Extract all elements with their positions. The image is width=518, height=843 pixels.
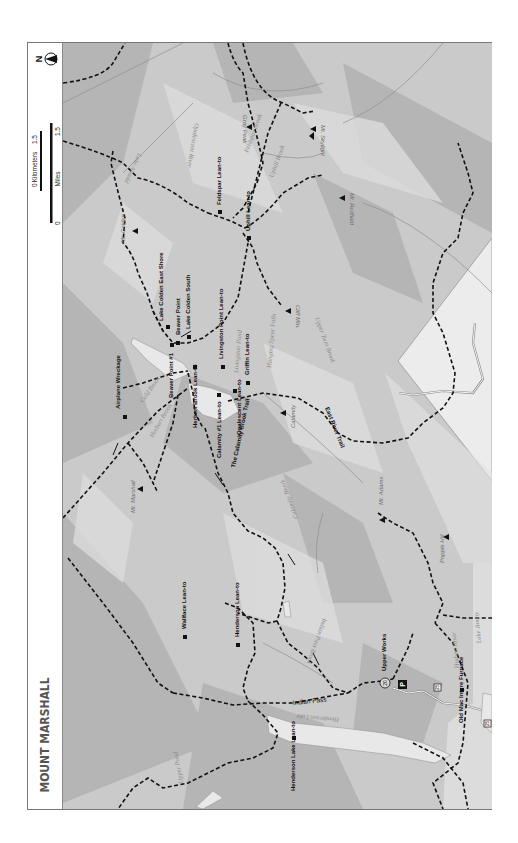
svg-text:Mt. Colden: Mt. Colden — [120, 213, 126, 243]
svg-text:1.5: 1.5 — [31, 135, 38, 144]
svg-text:Upper Works: Upper Works — [381, 633, 387, 671]
svg-text:Cliff Mtn.: Cliff Mtn. — [295, 305, 301, 329]
svg-text:Mt. Marshall: Mt. Marshall — [130, 480, 136, 513]
svg-text:P: P — [399, 682, 406, 687]
label-feldspar: Feldspar Lean-to — [216, 156, 222, 205]
svg-text:Henderson Lake Lean-to: Henderson Lake Lean-to — [290, 721, 296, 791]
svg-text:Calamity: Calamity — [290, 404, 296, 428]
svg-text:Mt. Adams: Mt. Adams — [378, 477, 384, 505]
svg-text:1.5: 1.5 — [54, 127, 61, 136]
svg-text:Wallface Lean-to: Wallface Lean-to — [181, 581, 187, 629]
map-title: MOUNT MARSHALL — [32, 675, 58, 795]
svg-text:Airplane Wreckage: Airplane Wreckage — [115, 354, 121, 409]
map-frame: N 0 Kilometers 1.5 0 Miles 1.5 MOUNT MAR… — [27, 42, 492, 810]
svg-text:0: 0 — [54, 221, 61, 225]
svg-text:Livingston Point Lean-to: Livingston Point Lean-to — [218, 288, 224, 359]
svg-text:0: 0 — [31, 183, 38, 187]
map-sidebar: N 0 Kilometers 1.5 0 Miles 1.5 MOUNT MAR… — [28, 43, 63, 809]
svg-text:25: 25 — [485, 721, 490, 727]
svg-text:Henderson Lean-to: Henderson Lean-to — [234, 582, 240, 637]
svg-text:Beaver Point #1: Beaver Point #1 — [168, 352, 174, 398]
svg-text:Griffin Lean-to: Griffin Lean-to — [244, 333, 250, 375]
svg-text:25: 25 — [435, 685, 440, 691]
svg-text:20: 20 — [382, 680, 388, 686]
svg-text:Lake Colden East Shore: Lake Colden East Shore — [158, 252, 164, 321]
svg-text:Kilometers: Kilometers — [31, 151, 38, 182]
svg-text:Miles: Miles — [54, 171, 61, 187]
map-title-text: MOUNT MARSHALL — [38, 677, 52, 792]
svg-text:Mt. Redfield: Mt. Redfield — [349, 193, 355, 226]
north-arrow: N — [32, 51, 60, 67]
svg-text:Uphill Lean-to: Uphill Lean-to — [245, 191, 251, 231]
svg-text:Lake Colden South: Lake Colden South — [185, 274, 191, 329]
svg-text:Beaver Point: Beaver Point — [175, 298, 181, 335]
svg-text:Calamity #1 Lean-to: Calamity #1 Lean-to — [216, 401, 222, 458]
svg-text:Popple Hill: Popple Hill — [439, 534, 445, 563]
svg-text:N: N — [34, 56, 44, 63]
route-20-shield: 20 — [380, 678, 390, 688]
parking-icon: P — [398, 680, 407, 689]
svg-text:Mt. Skylight: Mt. Skylight — [320, 125, 326, 156]
scale-bar: 0 Kilometers 1.5 0 Miles 1.5 — [28, 67, 63, 267]
topo-map: 20 P 25 25 Feldspar Lean-to Uphill Lean-… — [63, 43, 492, 809]
svg-text:Herbert Brook Lean-to: Herbert Brook Lean-to — [192, 364, 198, 428]
map-canvas[interactable]: 20 P 25 25 Feldspar Lean-to Uphill Lean-… — [63, 43, 492, 809]
north-arrow-icon: N — [32, 51, 60, 67]
